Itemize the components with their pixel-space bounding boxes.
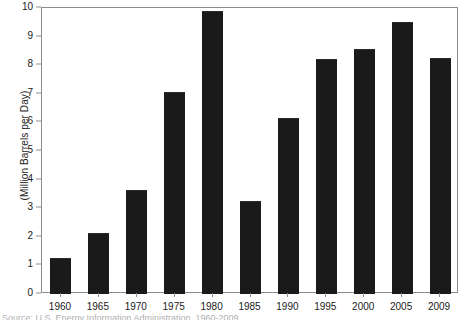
- bar: [88, 233, 109, 294]
- y-axis-ticks: 012345678910: [0, 0, 41, 300]
- y-tick-label: 3: [27, 202, 33, 212]
- x-tick-label: 2005: [390, 301, 412, 312]
- bar: [354, 49, 375, 294]
- x-tick-mark: [60, 293, 61, 297]
- bar: [50, 258, 71, 294]
- bar: [392, 22, 413, 294]
- x-tick-mark: [287, 293, 288, 297]
- x-tick-label: 1990: [276, 301, 298, 312]
- bar: [316, 59, 337, 294]
- x-tick-label: 1960: [49, 301, 71, 312]
- bar-series: [42, 8, 459, 294]
- x-tick-mark: [363, 293, 364, 297]
- x-tick-label: 1970: [125, 301, 147, 312]
- x-tick-mark: [439, 293, 440, 297]
- y-tick-label: 1: [27, 259, 33, 269]
- x-tick-mark: [174, 293, 175, 297]
- x-tick-mark: [250, 293, 251, 297]
- y-tick-label: 5: [27, 145, 33, 155]
- chart-caption: Source: U.S. Energy Information Administ…: [2, 313, 462, 320]
- x-tick-label: 1980: [200, 301, 222, 312]
- bar: [278, 118, 299, 294]
- x-tick-label: 1965: [87, 301, 109, 312]
- bar: [202, 11, 223, 294]
- bar: [430, 58, 451, 294]
- bar: [126, 190, 147, 294]
- y-tick-label: 6: [27, 116, 33, 126]
- x-tick-label: 2000: [352, 301, 374, 312]
- y-tick-label: 10: [22, 2, 33, 12]
- x-tick-mark: [325, 293, 326, 297]
- x-tick-label: 1975: [163, 301, 185, 312]
- y-tick-label: 0: [27, 288, 33, 298]
- y-tick-label: 9: [27, 31, 33, 41]
- x-tick-mark: [401, 293, 402, 297]
- plot-area: [41, 7, 458, 293]
- x-tick-mark: [212, 293, 213, 297]
- x-tick-label: 1995: [314, 301, 336, 312]
- bar-chart: (Million Barrels per Day) 012345678910 1…: [0, 0, 467, 320]
- y-tick-label: 7: [27, 88, 33, 98]
- y-tick-label: 8: [27, 59, 33, 69]
- y-tick-label: 2: [27, 231, 33, 241]
- y-tick-label: 4: [27, 174, 33, 184]
- bar: [240, 201, 261, 294]
- x-tick-mark: [136, 293, 137, 297]
- x-tick-label: 1985: [238, 301, 260, 312]
- x-tick-label: 2009: [428, 301, 450, 312]
- x-tick-mark: [98, 293, 99, 297]
- bar: [164, 92, 185, 294]
